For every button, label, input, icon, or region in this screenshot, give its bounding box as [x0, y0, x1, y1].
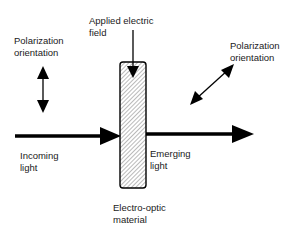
- vertical-polarization-arrow-icon: [37, 66, 49, 113]
- applied-field-label-line1: Applied electric: [89, 15, 153, 27]
- polarization-out-label-line2: orientation: [230, 52, 280, 64]
- electro-optic-material-label: Electro-optic material: [113, 202, 166, 226]
- polarization-out-label: Polarization orientation: [230, 40, 280, 64]
- applied-field-label: Applied electric field: [89, 15, 153, 39]
- diagonal-polarization-arrow-icon: [190, 64, 234, 105]
- polarization-in-label-line2: orientation: [14, 47, 64, 59]
- emerging-light-label-line1: Emerging: [150, 148, 191, 160]
- incoming-light-arrow-icon: [15, 127, 121, 145]
- emerging-light-label-line2: light: [150, 160, 191, 172]
- applied-field-label-line2: field: [89, 27, 153, 39]
- emerging-light-label: Emerging light: [150, 148, 191, 172]
- polarization-in-label-line1: Polarization: [14, 35, 64, 47]
- incoming-light-label-line2: light: [20, 162, 59, 174]
- incoming-light-label: Incoming light: [20, 150, 59, 174]
- polarization-in-label: Polarization orientation: [14, 35, 64, 59]
- electro-optic-slab: [120, 62, 146, 188]
- polarization-out-label-line1: Polarization: [230, 40, 280, 52]
- emerging-light-arrow-icon: [146, 125, 254, 143]
- incoming-light-label-line1: Incoming: [20, 150, 59, 162]
- material-label-line2: material: [113, 214, 166, 226]
- material-label-line1: Electro-optic: [113, 202, 166, 214]
